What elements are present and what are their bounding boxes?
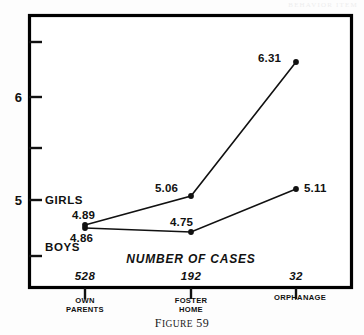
figure-caption-prefix: F: [155, 316, 162, 330]
value-label-boys-orphanage: 5.11: [304, 182, 327, 194]
data-point-boys-orphanage: [293, 186, 299, 192]
value-label-girls-orphanage: 6.31: [258, 52, 282, 64]
data-point-boys-foster-home: [188, 229, 194, 235]
number-of-cases-title: NUMBER OF CASES: [126, 252, 255, 266]
value-label-boys-own-parents: 4.86: [70, 232, 93, 244]
figure-caption-word: IGURE: [162, 319, 193, 329]
data-point-girls-orphanage: [293, 59, 299, 65]
category-label-own-parents-line2: PARENTS: [66, 305, 104, 314]
data-point-girls-foster-home: [188, 193, 194, 199]
category-label-orphanage: ORPHANAGE: [274, 293, 326, 302]
value-label-boys-foster-home: 4.75: [170, 216, 194, 228]
y-axis-label-5: 5: [15, 193, 22, 208]
data-point-boys-own-parents: [82, 225, 88, 231]
line-chart: 6 5 GIRLS BOYS 4.89 5.06 6.31: [0, 0, 364, 335]
figure-page: BEHAVIOR ITEM 6 5: [0, 0, 364, 335]
figure-caption-number: 59: [196, 316, 209, 330]
number-of-cases-foster-home: 192: [181, 270, 202, 282]
figure-caption: FIGURE 59: [0, 316, 364, 331]
series-label-girls: GIRLS: [45, 194, 83, 206]
category-label-foster-home-line2: HOME: [179, 305, 203, 314]
number-of-cases-own-parents: 528: [75, 270, 96, 282]
category-label-foster-home-line1: FOSTER: [175, 296, 208, 305]
value-label-girls-foster-home: 5.06: [155, 182, 178, 194]
number-of-cases-orphanage: 32: [289, 270, 303, 282]
y-axis-label-6: 6: [15, 90, 22, 105]
value-label-girls-own-parents: 4.89: [72, 209, 95, 221]
category-label-own-parents-line1: OWN: [75, 296, 94, 305]
